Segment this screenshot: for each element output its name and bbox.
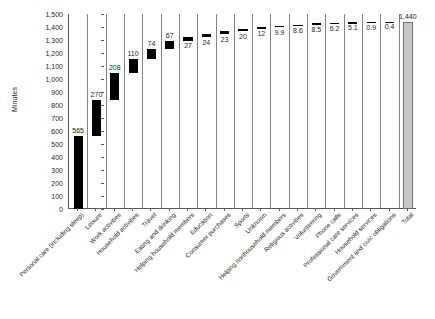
plot-area: 565270208110746727242320129.98.68.56.25.…: [68, 14, 416, 209]
y-axis-tick-label: 1,000: [45, 76, 63, 83]
category-divider: [344, 14, 345, 208]
x-axis-tick-mark: [169, 208, 170, 211]
x-axis-tick-mark: [205, 208, 206, 211]
category-divider: [325, 14, 326, 208]
waterfall-chart: Minutes 1,5001,4001,3001,2001,1001,00090…: [0, 0, 435, 319]
waterfall-bar: [147, 49, 156, 59]
y-axis-tick-label: 1,400: [45, 24, 63, 31]
waterfall-bar: [92, 100, 101, 135]
y-axis-tick-label: 700: [51, 115, 63, 122]
waterfall-bar: [110, 73, 119, 100]
category-divider: [270, 14, 271, 208]
y-axis-tick-label: 800: [51, 102, 63, 109]
bar-value-label: 1,440: [393, 13, 422, 21]
y-axis-tick-label: 100: [51, 193, 63, 200]
category-divider: [252, 14, 253, 208]
x-axis-tick-mark: [132, 208, 133, 211]
x-axis-label: Total: [400, 211, 414, 225]
bar-value-label: 0.4: [375, 23, 404, 31]
x-axis-tick-mark: [279, 208, 280, 211]
category-divider: [289, 14, 290, 208]
x-axis-tick-mark: [352, 208, 353, 211]
y-axis-tick-label: 300: [51, 167, 63, 174]
x-axis-tick-mark: [187, 208, 188, 211]
x-axis-tick-mark: [95, 208, 96, 211]
x-axis-tick-mark: [77, 208, 78, 211]
category-divider: [124, 14, 125, 208]
y-axis-tick-label: 600: [51, 128, 63, 135]
bar-value-label: 565: [64, 127, 93, 135]
x-axis-tick-mark: [389, 208, 390, 211]
total-bar: [403, 22, 413, 209]
x-axis-tick-mark: [370, 208, 371, 211]
y-axis-tick-label: 1,100: [45, 63, 63, 70]
category-divider: [307, 14, 308, 208]
category-divider: [362, 14, 363, 208]
y-axis-tick-label: 1,500: [45, 11, 63, 18]
x-axis-label: Personal care (including sleep): [18, 211, 85, 278]
x-axis-tick-mark: [407, 208, 408, 211]
y-axis-tick-label: 1,200: [45, 50, 63, 57]
bar-value-label: 270: [82, 91, 111, 99]
x-axis-tick-mark: [114, 208, 115, 211]
x-axis-category-labels: Personal care (including sleep)LeisureWo…: [68, 211, 416, 319]
bar-value-label: 208: [100, 64, 129, 72]
y-axis-title: Minutes: [11, 65, 18, 135]
y-axis-tick-label: 200: [51, 180, 63, 187]
waterfall-bar: [129, 59, 138, 73]
bar-value-label: 67: [155, 32, 184, 40]
category-divider: [106, 14, 107, 208]
x-axis-tick-mark: [297, 208, 298, 211]
y-axis-tick-label: 500: [51, 141, 63, 148]
y-axis-tick-label: 400: [51, 154, 63, 161]
y-axis-tick-label: 0: [59, 206, 63, 213]
x-axis-tick-mark: [242, 208, 243, 211]
y-axis-tick-mark: [101, 209, 104, 210]
y-axis-tick-label: 900: [51, 89, 63, 96]
bar-value-label: 110: [118, 50, 147, 58]
category-divider: [380, 14, 381, 208]
category-divider: [87, 14, 88, 208]
bar-value-label: 74: [137, 40, 166, 48]
x-axis-tick-mark: [224, 208, 225, 211]
y-axis-tick-label: 1,300: [45, 37, 63, 44]
category-divider: [399, 14, 400, 208]
x-axis-tick-mark: [334, 208, 335, 211]
y-axis-tick-labels: 1,5001,4001,3001,2001,1001,0009008007006…: [36, 14, 63, 209]
waterfall-bar: [74, 136, 83, 209]
